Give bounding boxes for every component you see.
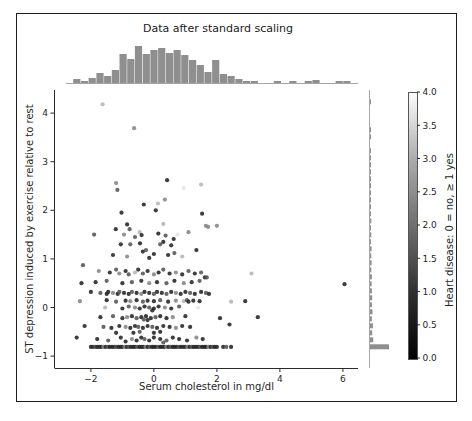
svg-text:0.0: 0.0 [423, 353, 438, 363]
x-axis: −20246 [55, 369, 358, 385]
scatter-points [75, 102, 347, 349]
svg-text:3.0: 3.0 [423, 154, 438, 164]
svg-text:−1: −1 [35, 351, 48, 361]
svg-text:4: 4 [277, 374, 283, 384]
top-histogram [66, 46, 358, 84]
svg-text:0: 0 [151, 374, 157, 384]
colorbar-ticks: 0.00.51.01.52.02.53.03.54.0 [417, 87, 437, 363]
svg-text:2.0: 2.0 [423, 220, 438, 230]
svg-text:1.5: 1.5 [423, 254, 437, 264]
figure: Data after standard scaling Serum choles… [0, 0, 472, 421]
right-histogram [370, 90, 390, 368]
y-axis: −101234 [35, 90, 55, 369]
svg-text:0: 0 [42, 303, 48, 313]
svg-text:−2: −2 [84, 374, 97, 384]
svg-text:2: 2 [42, 205, 48, 215]
svg-text:6: 6 [340, 374, 346, 384]
svg-text:1: 1 [42, 254, 48, 264]
svg-text:3.5: 3.5 [423, 121, 437, 131]
svg-text:2: 2 [214, 374, 220, 384]
svg-text:2.5: 2.5 [423, 187, 437, 197]
svg-text:0.5: 0.5 [423, 320, 437, 330]
svg-text:4.0: 4.0 [423, 87, 438, 97]
svg-text:4: 4 [42, 108, 48, 118]
plot-canvas: −20246−1012340.00.51.01.52.02.53.03.54.0 [0, 0, 472, 421]
svg-text:3: 3 [42, 157, 48, 167]
svg-text:1.0: 1.0 [423, 287, 438, 297]
